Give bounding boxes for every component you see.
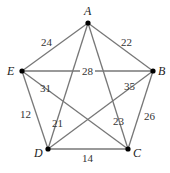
- vertex-label-D: D: [33, 146, 43, 160]
- edge-weight-ED: 12: [20, 108, 31, 120]
- edge-weight-EC: 31: [40, 82, 51, 94]
- edge-AE: [22, 23, 88, 71]
- vertex-label-B: B: [158, 64, 166, 78]
- edge-AD: [48, 23, 88, 149]
- vertex-D: [45, 146, 50, 151]
- edge-weight-DC: 14: [82, 152, 94, 164]
- edge-weight-BC: 26: [144, 110, 156, 122]
- vertex-B: [150, 68, 155, 73]
- weighted-graph: 24222831351221232614ABCDE: [0, 0, 170, 173]
- edge-BD: [48, 71, 153, 149]
- vertex-label-C: C: [133, 146, 142, 160]
- vertex-label-A: A: [83, 4, 92, 18]
- edge-weight-AB: 22: [121, 36, 132, 48]
- edge-EC: [22, 71, 128, 149]
- edge-weight-AC: 23: [113, 115, 125, 127]
- edge-weight-EB: 28: [82, 65, 94, 77]
- edge-weight-BD: 35: [124, 80, 136, 92]
- edge-weight-AD: 21: [52, 117, 63, 129]
- vertex-A: [85, 20, 90, 25]
- edge-weight-AE: 24: [41, 36, 53, 48]
- vertex-E: [19, 68, 24, 73]
- vertex-label-E: E: [6, 64, 15, 78]
- vertex-C: [125, 146, 130, 151]
